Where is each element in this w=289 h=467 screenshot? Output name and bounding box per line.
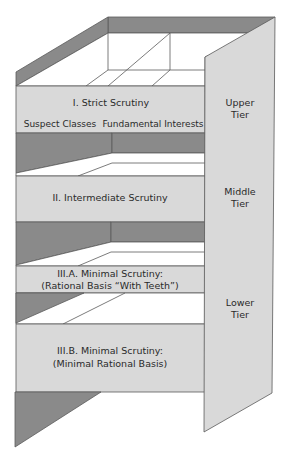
band-2-right	[111, 222, 205, 242]
shelf-3b-line2: (Minimal Rational Basis)	[53, 358, 167, 369]
scrutiny-tiers-diagram: I. Strict Scrutiny Suspect Classes Funda…	[0, 0, 289, 467]
shelf-1-title: I. Strict Scrutiny	[73, 97, 150, 108]
shelf-1-sublabel-suspect-classes: Suspect Classes	[24, 119, 97, 129]
top-back-bar	[108, 17, 275, 33]
tier-upper-line1: Upper	[226, 97, 255, 108]
tier-middle-line1: Middle	[224, 186, 256, 197]
tier-upper-line2: Tier	[230, 109, 249, 120]
shelf-2-title: II. Intermediate Scrutiny	[52, 192, 168, 203]
shelf-1-sublabel-fundamental-interests: Fundamental Interests	[102, 119, 203, 129]
tier-lower-line2: Tier	[230, 309, 249, 320]
tier-lower-line1: Lower	[226, 297, 255, 308]
shelf-3a-line1: III.A. Minimal Scrutiny:	[57, 268, 163, 279]
bottom-left-base	[15, 392, 101, 447]
tier-middle-line2: Tier	[230, 198, 249, 209]
shelf-3a-line2: (Rational Basis “With Teeth”)	[41, 280, 178, 291]
shelf-3b-line1: III.B. Minimal Scrutiny:	[57, 345, 163, 356]
band-1-right	[112, 133, 205, 153]
tier-panel	[204, 17, 275, 432]
